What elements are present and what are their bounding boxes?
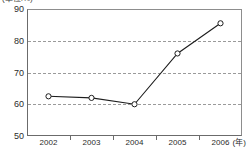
data-point-2003 [89, 95, 94, 100]
data-point-2004 [132, 102, 137, 107]
series-line [49, 23, 221, 104]
series-markers [46, 21, 223, 107]
data-point-2005 [175, 51, 180, 56]
line-chart: (単位:%) 5060708090 20022003200420052006(年… [0, 0, 250, 153]
data-point-2002 [46, 94, 51, 99]
series-layer [0, 0, 250, 153]
data-point-2006 [218, 21, 223, 26]
